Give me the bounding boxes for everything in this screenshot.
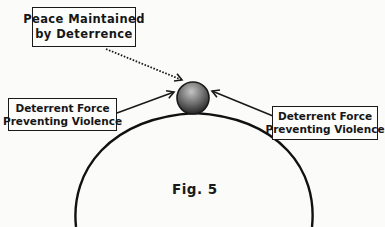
peace-callout-line1: Peace Maintained xyxy=(23,12,145,27)
figure-label: Fig. 5 xyxy=(172,181,218,197)
left-arrow xyxy=(117,92,174,113)
right-force-line1: Deterrent Force xyxy=(278,110,372,123)
ball-icon xyxy=(177,82,209,114)
right-force-callout-box: Deterrent Force Preventing Violence xyxy=(272,106,378,140)
peace-callout-line2: by Deterrence xyxy=(35,27,133,42)
peace-callout-box: Peace Maintained by Deterrence xyxy=(32,7,136,47)
left-force-line1: Deterrent Force xyxy=(15,102,109,115)
right-arrow xyxy=(212,91,273,116)
right-force-line2: Preventing Violence xyxy=(266,123,385,136)
left-force-callout-box: Deterrent Force Preventing Violence xyxy=(8,98,117,131)
dotted-arrow xyxy=(106,49,182,80)
left-force-line2: Preventing Violence xyxy=(3,115,122,128)
